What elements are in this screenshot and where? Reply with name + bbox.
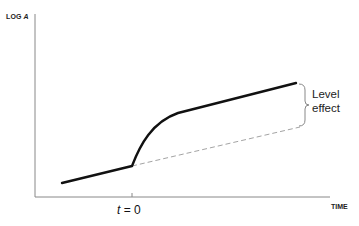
chart-canvas (0, 0, 359, 226)
t0-label: t = 0 (117, 203, 141, 217)
level-effect-brace (299, 84, 309, 126)
level-effect-label: Level effect (312, 87, 340, 115)
counterfactual-dashed-line (132, 127, 300, 166)
x-axis-label: TIME (331, 203, 348, 210)
y-axis-label: LOG A (6, 13, 29, 20)
log-a-path (62, 83, 296, 183)
